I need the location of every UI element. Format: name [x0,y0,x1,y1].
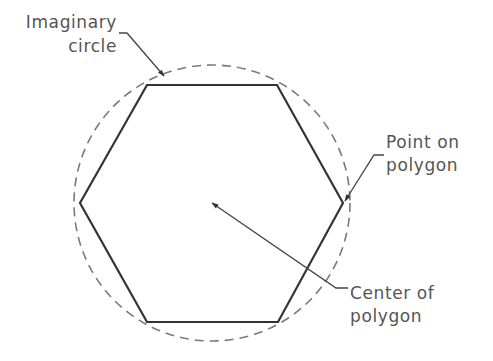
leader-center-of-polygon [212,203,348,288]
label-center-of-polygon-line2: polygon [350,306,422,326]
diagram-canvas: Imaginary circle Point on polygon Center… [0,0,493,361]
label-point-on-polygon: Point on polygon [386,132,460,175]
leader-imaginary-circle [119,33,164,76]
label-point-on-polygon-line2: polygon [386,155,458,175]
leader-point-on-polygon [345,155,384,201]
hexagon-polygon [80,85,343,322]
hexagon-diagram: Imaginary circle Point on polygon Center… [0,0,493,361]
label-center-of-polygon-line1: Center of [350,283,435,303]
label-point-on-polygon-line1: Point on [386,132,460,152]
label-imaginary-circle-line2: circle [68,36,117,56]
label-imaginary-circle-line1: Imaginary [26,12,117,32]
label-imaginary-circle: Imaginary circle [26,12,117,56]
label-center-of-polygon: Center of polygon [350,283,435,326]
